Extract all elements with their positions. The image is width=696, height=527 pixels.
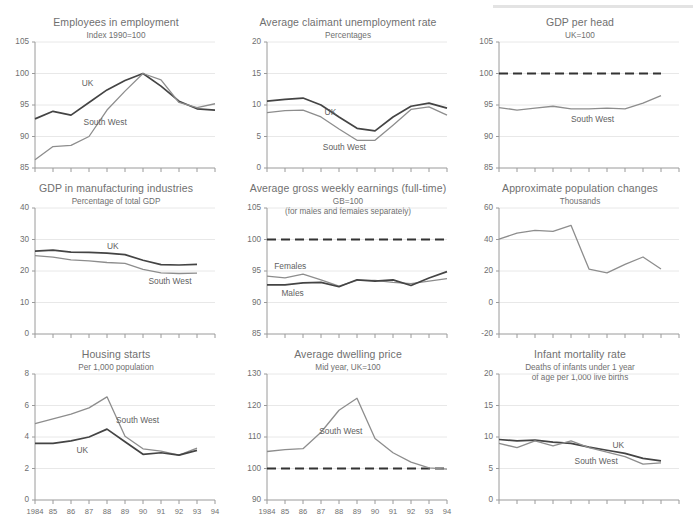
y-tick-label: 0 — [467, 298, 493, 307]
y-tick-label: 10 — [467, 432, 493, 441]
y-tick-label: 95 — [235, 266, 261, 275]
y-tick-label: 0 — [3, 495, 29, 504]
y-tick-label: 100 — [3, 69, 29, 78]
y-tick-label: 5 — [235, 132, 261, 141]
series-label: UK — [612, 440, 624, 450]
chart-plot-area — [464, 14, 696, 182]
y-tick-label: 120 — [235, 401, 261, 410]
chart-plot-area — [0, 346, 232, 514]
chart-plot-area — [0, 180, 232, 348]
chart-panel-infant-mortality-rate: Infant mortality rateDeaths of infants u… — [464, 346, 696, 514]
series-label: UK — [325, 107, 337, 117]
y-tick-label: 100 — [467, 69, 493, 78]
y-tick-label: 110 — [235, 432, 261, 441]
series-line-approximate-population-changes — [499, 225, 661, 273]
y-tick-label: 20 — [467, 369, 493, 378]
y-tick-label: 0 — [467, 495, 493, 504]
chart-plot-area — [464, 346, 696, 514]
y-tick-label: 85 — [235, 329, 261, 338]
y-tick-label: 4 — [3, 432, 29, 441]
y-tick-label: 2 — [3, 464, 29, 473]
y-tick-label: 15 — [467, 401, 493, 410]
series-label: UK — [107, 241, 119, 251]
x-tick-label: 94 — [435, 507, 459, 516]
chart-plot-area — [232, 14, 464, 182]
y-tick-label: -20 — [467, 329, 493, 338]
y-tick-label: 100 — [235, 235, 261, 244]
series-label: Males — [281, 288, 303, 298]
y-tick-label: 105 — [235, 203, 261, 212]
chart-plot-area — [232, 180, 464, 348]
y-tick-label: 0 — [235, 163, 261, 172]
y-tick-label: 15 — [235, 69, 261, 78]
y-tick-label: 20 — [235, 37, 261, 46]
series-label: South West — [323, 142, 366, 152]
y-tick-label: 10 — [3, 298, 29, 307]
series-line-males — [267, 272, 447, 287]
series-line-uk — [267, 98, 447, 131]
y-tick-label: 95 — [3, 100, 29, 109]
y-tick-label: 100 — [235, 464, 261, 473]
y-tick-label: 85 — [467, 163, 493, 172]
y-tick-label: 90 — [3, 132, 29, 141]
y-tick-label: 85 — [3, 163, 29, 172]
y-tick-label: 90 — [235, 495, 261, 504]
y-tick-label: 40 — [3, 203, 29, 212]
y-tick-label: 6 — [3, 401, 29, 410]
chart-panel-employees-in-employment: Employees in employmentIndex 1990=100859… — [0, 14, 232, 182]
y-tick-label: 20 — [467, 266, 493, 275]
series-line-south-west — [267, 107, 447, 140]
y-tick-label: 60 — [467, 203, 493, 212]
series-label: South West — [319, 426, 362, 436]
chart-panel-average-gross-weekly-earnings: Average gross weekly earnings (full-time… — [232, 180, 464, 348]
chart-panel-average-dwelling-price: Average dwelling priceMid year, UK=10090… — [232, 346, 464, 514]
chart-plot-area — [0, 14, 232, 182]
series-label: South West — [575, 456, 618, 466]
y-tick-label: 0 — [3, 329, 29, 338]
chart-grid: Employees in employmentIndex 1990=100859… — [0, 0, 696, 527]
y-tick-label: 105 — [3, 37, 29, 46]
chart-panel-approximate-population-changes: Approximate population changesThousands-… — [464, 180, 696, 348]
y-tick-label: 30 — [3, 235, 29, 244]
y-tick-label: 5 — [467, 464, 493, 473]
chart-panel-housing-starts: Housing startsPer 1,000 population024681… — [0, 346, 232, 514]
series-label: South West — [571, 114, 614, 124]
y-tick-label: 130 — [235, 369, 261, 378]
series-label: South West — [116, 415, 159, 425]
series-label: South West — [84, 117, 127, 127]
y-tick-label: 90 — [235, 298, 261, 307]
series-label: UK — [76, 445, 88, 455]
chart-panel-gdp-in-manufacturing-industries: GDP in manufacturing industriesPercentag… — [0, 180, 232, 348]
y-tick-label: 40 — [467, 235, 493, 244]
series-line-uk — [35, 429, 197, 455]
y-tick-label: 10 — [235, 100, 261, 109]
y-tick-label: 8 — [3, 369, 29, 378]
series-line-uk — [35, 74, 215, 119]
series-label: South West — [148, 276, 191, 286]
series-label: Females — [274, 261, 306, 271]
y-tick-label: 105 — [467, 37, 493, 46]
x-tick-label: 94 — [203, 507, 227, 516]
series-line-south-west — [499, 96, 661, 110]
chart-panel-gdp-per-head: GDP per headUK=100859095100105South West — [464, 14, 696, 182]
chart-plot-area — [464, 180, 696, 348]
series-label: UK — [82, 78, 94, 88]
y-tick-label: 90 — [467, 132, 493, 141]
y-tick-label: 20 — [3, 266, 29, 275]
y-tick-label: 95 — [467, 100, 493, 109]
chart-panel-average-claimant-unemployment-rate: Average claimant unemployment ratePercen… — [232, 14, 464, 182]
